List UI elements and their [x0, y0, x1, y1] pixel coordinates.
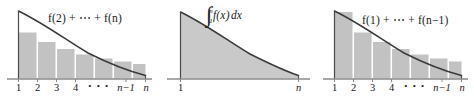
bar	[392, 49, 410, 79]
bar	[133, 64, 146, 79]
integral-expression: ∫n1f(x) dx	[206, 7, 242, 25]
bar	[57, 49, 75, 79]
integral-upper-limit: n	[209, 7, 213, 15]
bar	[95, 59, 113, 79]
integral-limits: n1	[209, 7, 213, 25]
differential: dx	[231, 9, 242, 21]
panel-lower-sum: 1 2 3 4 • • • n−1 n f(2) + ⋯ + f(n)	[0, 0, 158, 101]
bar	[76, 55, 94, 79]
integral-test-figure: 1 2 3 4 • • • n−1 n f(2) + ⋯ + f(n)	[0, 0, 474, 101]
panel-lower-sum-label: f(2) + ⋯ + f(n)	[48, 11, 122, 25]
integrand: f(x)	[213, 9, 230, 21]
bar	[354, 33, 372, 79]
bar	[449, 62, 462, 79]
panel-integral: 1 n ∫n1f(x) dx	[158, 0, 316, 101]
bar	[335, 12, 353, 79]
bar	[19, 33, 37, 79]
panel-integral-label: ∫n1f(x) dx	[206, 7, 242, 25]
bar	[373, 42, 391, 79]
bar	[38, 42, 56, 79]
panel-upper-sum: 1 2 3 4 • • • n−1 n f(1) + ⋯ + f(n−1)	[316, 0, 474, 101]
panel-upper-sum-label: f(1) + ⋯ + f(n−1)	[362, 13, 449, 27]
integral-lower-limit: 1	[209, 17, 213, 25]
